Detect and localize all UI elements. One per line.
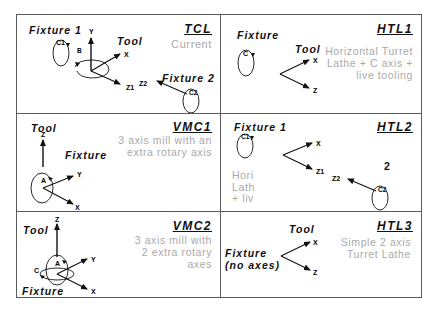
- panel-htl1: HTL1 Horizontal Turret Lathe + C axis + …: [221, 15, 423, 113]
- tcl-axes-diagram: C1 Y X Z1 B Z2 C2: [17, 15, 220, 113]
- svg-text:X: X: [313, 57, 318, 64]
- svg-text:C2: C2: [189, 89, 198, 96]
- svg-text:Z2: Z2: [332, 175, 340, 182]
- htl2-axes-diagram: C1 X Z1 Z2 C2: [221, 114, 423, 211]
- panel-htl2: HTL2 Hori Lath + liv Fixture 1 2 C1 X Z1…: [221, 114, 423, 211]
- htl1-axes-diagram: C X Z: [221, 15, 423, 113]
- svg-text:A: A: [41, 177, 46, 184]
- svg-text:Y: Y: [77, 171, 82, 178]
- svg-text:X: X: [316, 140, 321, 147]
- svg-text:Z1: Z1: [316, 168, 324, 175]
- svg-text:Z2: Z2: [139, 80, 147, 87]
- svg-text:Z: Z: [55, 216, 60, 223]
- svg-text:A: A: [55, 260, 60, 267]
- svg-text:C: C: [243, 50, 248, 57]
- panel-htl3: HTL3 Simple 2 axis Turret Lathe Tool Fix…: [221, 212, 423, 298]
- svg-text:Y: Y: [89, 28, 94, 35]
- svg-text:X: X: [91, 288, 96, 295]
- machine-comparison-grid: TCL Current Fixture 1 Tool Fixture 2 C1 …: [16, 14, 422, 298]
- svg-text:C2: C2: [378, 186, 387, 193]
- svg-text:B: B: [77, 47, 82, 54]
- panel-tcl: TCL Current Fixture 1 Tool Fixture 2 C1 …: [17, 15, 220, 113]
- svg-text:C: C: [34, 267, 39, 274]
- htl3-axes-diagram: X Z: [221, 212, 423, 298]
- vmc2-axes-diagram: Z A C Y X: [17, 212, 220, 298]
- panel-vmc1: VMC1 3 axis mill with an extra rotary ax…: [17, 114, 220, 211]
- svg-text:X: X: [75, 204, 80, 211]
- svg-text:Z1: Z1: [126, 84, 134, 91]
- svg-text:Z: Z: [41, 131, 46, 138]
- svg-text:C1: C1: [241, 133, 250, 140]
- panel-vmc2: VMC2 3 axis mill with 2 extra rotary axe…: [17, 212, 220, 298]
- svg-text:Z: Z: [313, 269, 318, 276]
- svg-text:X: X: [313, 239, 318, 246]
- svg-text:C1: C1: [56, 39, 65, 46]
- svg-text:Z: Z: [313, 87, 318, 94]
- svg-text:Y: Y: [91, 256, 96, 263]
- vmc1-axes-diagram: Z A Y X: [17, 114, 220, 211]
- svg-text:X: X: [124, 51, 129, 58]
